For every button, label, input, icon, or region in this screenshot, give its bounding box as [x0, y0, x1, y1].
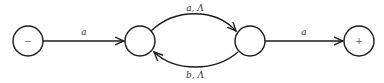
arrow-q2-to-q1 [154, 52, 238, 67]
state-q2 [235, 26, 265, 56]
automaton-diagram: a a, Λ b, Λ a − + [0, 0, 384, 83]
transition-start-to-q1: a [43, 27, 124, 41]
transition-q2-to-final: a [265, 27, 343, 41]
state-start: − [13, 26, 43, 56]
transition-q1-to-q2: a, Λ [151, 3, 236, 31]
arrow-q1-to-q2 [151, 14, 236, 31]
edge-label-start-to-q1: a [81, 27, 86, 37]
q1-state-circle [125, 26, 155, 56]
edge-label-q2-to-final: a [301, 27, 306, 37]
state-final: + [344, 26, 374, 56]
start-state-label: − [24, 36, 32, 46]
final-state-label: + [355, 36, 363, 46]
edge-label-q2-to-q1: b, Λ [186, 70, 204, 80]
state-q1 [125, 26, 155, 56]
edge-label-q1-to-q2: a, Λ [186, 3, 204, 13]
q2-state-circle [235, 26, 265, 56]
transition-q2-to-q1: b, Λ [154, 52, 238, 80]
